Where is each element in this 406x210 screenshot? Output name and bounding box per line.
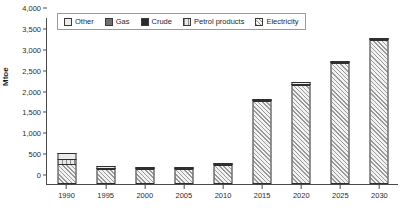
bar-segment-electricity bbox=[57, 164, 76, 184]
x-tick: 2025 bbox=[332, 184, 349, 200]
y-tick-label: 0 bbox=[11, 171, 41, 180]
x-tick: 1990 bbox=[58, 184, 75, 200]
plot-area: 05001,0001,5002,0002,5003,0003,5004,000 … bbox=[46, 18, 398, 185]
y-tick-label: 3,000 bbox=[11, 45, 41, 54]
x-tick-label: 2030 bbox=[371, 191, 388, 200]
legend-swatch-crude bbox=[141, 18, 149, 26]
legend-item-electricity[interactable]: Electricity bbox=[255, 17, 298, 26]
x-tick-mark bbox=[340, 184, 341, 189]
y-tick: 2,000 bbox=[11, 87, 47, 96]
bar-segment-electricity bbox=[253, 101, 272, 184]
y-tick-mark bbox=[43, 154, 47, 155]
x-tick-label: 2005 bbox=[176, 191, 193, 200]
legend-swatch-petrol bbox=[183, 18, 191, 26]
y-tick-mark bbox=[43, 175, 47, 176]
y-tick-label: 3,500 bbox=[11, 24, 41, 33]
y-tick-label: 500 bbox=[11, 150, 41, 159]
x-tick-label: 2010 bbox=[215, 191, 232, 200]
y-tick-mark bbox=[43, 70, 47, 71]
legend-swatch-gas bbox=[105, 18, 113, 26]
y-tick: 4,000 bbox=[11, 4, 47, 13]
x-tick-mark bbox=[301, 184, 302, 189]
legend-label-petrol: Petrol products bbox=[194, 17, 244, 26]
legend-item-gas[interactable]: Gas bbox=[105, 17, 130, 26]
y-tick: 2,500 bbox=[11, 66, 47, 75]
bar-2015 bbox=[253, 99, 272, 184]
chart-legend: OtherGasCrudePetrol productsElectricity bbox=[57, 13, 306, 30]
y-tick: 3,500 bbox=[11, 24, 47, 33]
x-tick: 2005 bbox=[176, 184, 193, 200]
legend-item-crude[interactable]: Crude bbox=[141, 17, 172, 26]
y-axis-label: Mtoe bbox=[1, 67, 10, 86]
bar-segment-electricity bbox=[292, 85, 311, 184]
x-tick: 2015 bbox=[254, 184, 271, 200]
x-tick: 2000 bbox=[136, 184, 153, 200]
bar-segment-electricity bbox=[214, 165, 233, 184]
y-tick-label: 1,500 bbox=[11, 108, 41, 117]
legend-label-crude: Crude bbox=[152, 17, 172, 26]
y-tick-mark bbox=[43, 49, 47, 50]
x-tick-label: 2025 bbox=[332, 191, 349, 200]
chart-container: Mtoe 05001,0001,5002,0002,5003,0003,5004… bbox=[0, 0, 406, 210]
bar-2025 bbox=[331, 61, 350, 184]
y-tick: 1,500 bbox=[11, 108, 47, 117]
bar-1995 bbox=[96, 166, 115, 184]
x-tick: 2030 bbox=[371, 184, 388, 200]
x-tick-mark bbox=[66, 184, 67, 189]
y-tick-mark bbox=[43, 133, 47, 134]
bar-segment-electricity bbox=[96, 169, 115, 184]
legend-item-petrol[interactable]: Petrol products bbox=[183, 17, 244, 26]
bar-2030 bbox=[370, 38, 389, 184]
bar-1990 bbox=[57, 153, 76, 184]
legend-label-other: Other bbox=[75, 17, 94, 26]
legend-label-electricity: Electricity bbox=[266, 17, 298, 26]
x-tick-label: 1990 bbox=[58, 191, 75, 200]
y-tick: 0 bbox=[11, 171, 47, 180]
y-tick-mark bbox=[43, 8, 47, 9]
y-tick-mark bbox=[43, 91, 47, 92]
x-tick: 2010 bbox=[215, 184, 232, 200]
bar-2010 bbox=[214, 163, 233, 184]
y-tick: 3,000 bbox=[11, 45, 47, 54]
legend-item-other[interactable]: Other bbox=[64, 17, 94, 26]
y-tick: 500 bbox=[11, 150, 47, 159]
y-tick-mark bbox=[43, 28, 47, 29]
x-tick-mark bbox=[105, 184, 106, 189]
x-tick-label: 2020 bbox=[293, 191, 310, 200]
bar-2020 bbox=[292, 82, 311, 184]
x-tick: 2020 bbox=[293, 184, 310, 200]
y-tick-label: 2,000 bbox=[11, 87, 41, 96]
legend-swatch-other bbox=[64, 18, 72, 26]
x-tick-mark bbox=[183, 184, 184, 189]
x-tick-label: 2015 bbox=[254, 191, 271, 200]
legend-label-gas: Gas bbox=[116, 17, 130, 26]
legend-swatch-electricity bbox=[255, 18, 263, 26]
x-tick-mark bbox=[223, 184, 224, 189]
x-tick-label: 2000 bbox=[136, 191, 153, 200]
y-tick-label: 2,500 bbox=[11, 66, 41, 75]
x-tick-label: 1995 bbox=[97, 191, 114, 200]
x-tick: 1995 bbox=[97, 184, 114, 200]
bar-segment-electricity bbox=[331, 63, 350, 184]
bar-2000 bbox=[135, 167, 154, 184]
y-tick: 1,000 bbox=[11, 129, 47, 138]
bar-segment-electricity bbox=[174, 169, 193, 184]
y-tick-label: 1,000 bbox=[11, 129, 41, 138]
x-tick-mark bbox=[379, 184, 380, 189]
x-tick-mark bbox=[144, 184, 145, 189]
bar-segment-electricity bbox=[370, 40, 389, 184]
y-tick-label: 4,000 bbox=[11, 4, 41, 13]
y-tick-mark bbox=[43, 112, 47, 113]
bar-2005 bbox=[174, 167, 193, 184]
x-tick-mark bbox=[262, 184, 263, 189]
bar-segment-electricity bbox=[135, 169, 154, 184]
